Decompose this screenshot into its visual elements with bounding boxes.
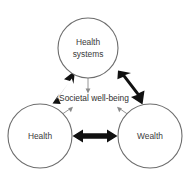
connector-health-systems-to-center: [86, 78, 91, 94]
center-label-societal-wellbeing: Societal well-being: [59, 93, 129, 103]
node-health-systems[interactable]: [58, 18, 118, 78]
diagram-svg: Health systems Health Wealth Societal we…: [0, 0, 190, 180]
node-wealth-label: Wealth: [137, 131, 163, 141]
connector-health-to-wealth: [73, 130, 118, 143]
node-health-systems-label-line1: Health: [76, 37, 101, 47]
node-health-systems-label-line2: systems: [73, 49, 104, 59]
diagram-canvas: Health systems Health Wealth Societal we…: [0, 0, 190, 180]
node-health-label: Health: [28, 131, 53, 141]
